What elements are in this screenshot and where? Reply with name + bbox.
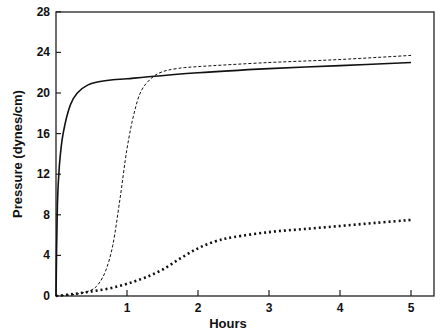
series-line-dashed [56, 55, 411, 296]
x-tick-label: 4 [337, 301, 344, 315]
y-tick-label: 16 [37, 127, 51, 141]
x-tick-label: 5 [408, 301, 415, 315]
x-axis-ticks: 12345 [124, 290, 415, 315]
plot-frame [56, 12, 434, 296]
x-axis-title: Hours [209, 316, 247, 331]
y-tick-label: 28 [37, 5, 51, 19]
y-tick-label: 4 [43, 248, 50, 262]
x-tick-label: 1 [124, 301, 131, 315]
data-series [56, 55, 411, 296]
y-tick-label: 12 [37, 167, 51, 181]
line-chart: 0481216202428 12345 Hours Pressure (dyne… [0, 0, 447, 335]
y-tick-label: 24 [37, 45, 51, 59]
x-tick-label: 3 [266, 301, 273, 315]
y-axis-title: Pressure (dynes/cm) [10, 90, 25, 218]
series-line-dotted [56, 220, 411, 296]
y-axis-ticks: 0481216202428 [37, 5, 61, 303]
y-tick-label: 20 [37, 86, 51, 100]
x-tick-label: 2 [195, 301, 202, 315]
y-tick-label: 0 [43, 289, 50, 303]
y-tick-label: 8 [43, 208, 50, 222]
